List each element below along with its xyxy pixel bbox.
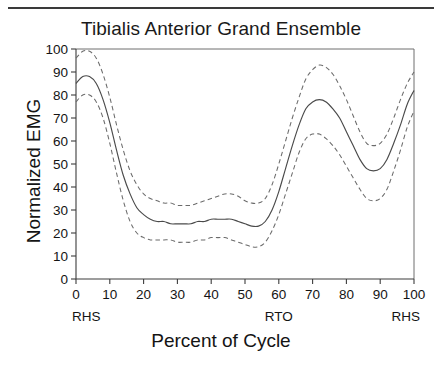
x-tick-label: 50 — [237, 287, 252, 302]
y-tick-label: 30 — [53, 203, 68, 218]
y-tick-label: 40 — [53, 180, 68, 195]
y-tick-label: 100 — [45, 42, 68, 57]
event-label-rto-60: RTO — [265, 309, 293, 324]
event-label-rhs-100: RHS — [391, 309, 420, 324]
x-tick-label: 80 — [339, 287, 354, 302]
x-tick-label: 10 — [102, 287, 117, 302]
curve-mean — [76, 76, 414, 227]
x-tick-label: 40 — [204, 287, 219, 302]
y-tick-label: 50 — [53, 157, 68, 172]
y-tick-label: 0 — [60, 272, 68, 287]
y-tick-label: 70 — [53, 111, 68, 126]
y-axis-label: Normalized EMG — [23, 71, 45, 271]
x-tick-label: 0 — [72, 287, 80, 302]
x-tick-label: 30 — [170, 287, 185, 302]
y-tick-label: 80 — [53, 88, 68, 103]
y-tick-label: 90 — [53, 65, 68, 80]
y-tick-label: 10 — [53, 249, 68, 264]
x-tick-label: 100 — [403, 287, 426, 302]
x-tick-label: 60 — [271, 287, 286, 302]
y-tick-label: 60 — [53, 134, 68, 149]
curve-upper-band — [76, 50, 414, 205]
x-tick-label: 20 — [136, 287, 151, 302]
chart-plot-area: 0102030405060708090100010203040506070809… — [0, 0, 442, 370]
event-label-rhs-0: RHS — [72, 309, 101, 324]
y-tick-label: 20 — [53, 226, 68, 241]
x-tick-label: 90 — [373, 287, 388, 302]
chart-svg: 0102030405060708090100010203040506070809… — [0, 0, 442, 370]
x-axis-label: Percent of Cycle — [0, 330, 442, 352]
x-tick-label: 70 — [305, 287, 320, 302]
